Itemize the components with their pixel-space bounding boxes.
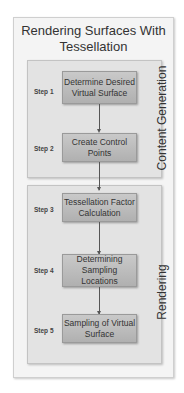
step-label-2: Step 2 [34, 145, 54, 152]
connector-1-2 [99, 104, 100, 131]
connector-4-5 [99, 287, 100, 314]
step-label-5: Step 5 [34, 327, 54, 334]
step-box-2: Create Control Points [62, 133, 137, 162]
step-box-1: Determine Desired Virtual Surface [62, 71, 137, 104]
diagram-title: Rendering Surfaces With Tessellation [13, 23, 174, 55]
step-label-1: Step 1 [34, 88, 54, 95]
step-label-4: Step 4 [34, 267, 54, 274]
connector-2-3 [99, 162, 100, 190]
section-label-content-generation: Content Generation [155, 61, 169, 175]
arrow-down-icon [97, 187, 101, 191]
step-box-5: Sampling of Virtual Surface [62, 314, 137, 343]
step-box-3: Tessellation Factor Calculation [62, 193, 137, 222]
section-label-rendering: Rendering [155, 252, 169, 332]
step-label-3: Step 3 [34, 206, 54, 213]
step-box-4: Determining Sampling Locations [62, 254, 137, 287]
connector-3-4 [99, 222, 100, 254]
